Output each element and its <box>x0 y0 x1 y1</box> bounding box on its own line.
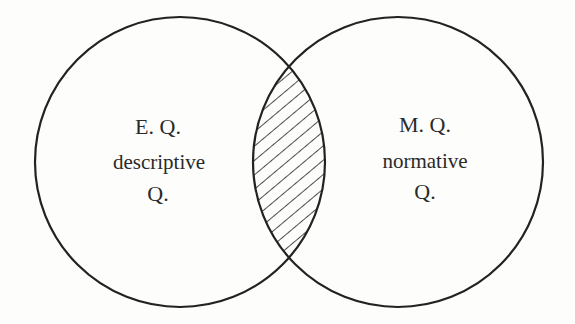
right-label-line2: normative <box>382 149 467 173</box>
left-label-line2: descriptive <box>113 150 205 174</box>
right-label-line1: M. Q. <box>399 112 451 137</box>
venn-diagram: E. Q. descriptive Q. M. Q. normative Q. <box>0 0 575 324</box>
left-label-line1: E. Q. <box>135 114 181 139</box>
left-label-line3: Q. <box>147 181 168 206</box>
right-label-line3: Q. <box>414 179 435 204</box>
